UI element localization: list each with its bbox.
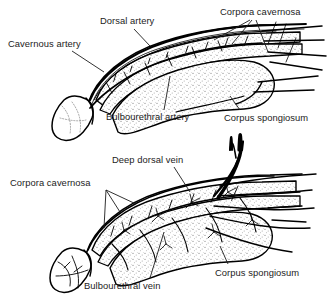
label-corpus-spongiosum-upper: Corpus spongiosum xyxy=(224,112,308,123)
label-corpora-cavernosa-upper: Corpora cavernosa xyxy=(220,6,301,17)
label-deep-dorsal-vein: Deep dorsal vein xyxy=(112,154,183,165)
label-bulbourethral-artery: Bulbourethral artery xyxy=(106,111,189,122)
deep-dorsal-vein-ascending xyxy=(239,135,241,150)
label-dorsal-artery: Dorsal artery xyxy=(100,15,154,26)
anatomical-figure: Dorsal artery Cavernous artery Corpora c… xyxy=(0,0,333,307)
leader-cavernous-artery xyxy=(72,51,104,72)
deep-dorsal-vein-second-trunk xyxy=(230,137,232,150)
label-cavernous-artery: Cavernous artery xyxy=(8,38,81,49)
leader-dorsal-artery xyxy=(134,29,150,46)
label-corpora-cavernosa-lower: Corpora cavernosa xyxy=(10,177,91,188)
label-bulbourethral-vein: Bulbourethral vein xyxy=(84,280,160,291)
label-corpus-spongiosum-lower: Corpus spongiosum xyxy=(215,267,299,278)
